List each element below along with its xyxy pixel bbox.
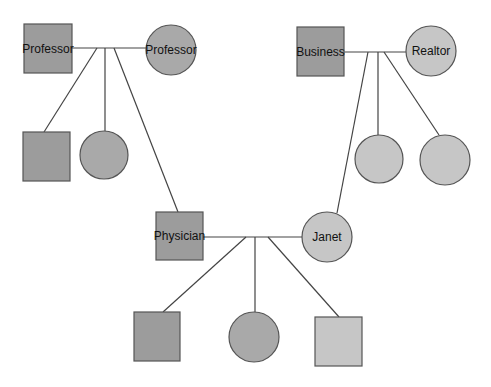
node-label: Janet — [312, 230, 342, 244]
male-square-icon — [134, 312, 180, 361]
node-uncle1 — [23, 132, 70, 181]
node-aunt1 — [80, 131, 128, 179]
node-pgm: Professor — [145, 25, 196, 75]
node-son2 — [315, 317, 362, 366]
node-aunt2 — [355, 135, 403, 183]
node-aunt3 — [420, 135, 470, 185]
node-daughter — [229, 312, 279, 362]
node-mgf: Business — [296, 27, 345, 76]
female-circle-icon — [229, 312, 279, 362]
female-circle-icon — [355, 135, 403, 183]
male-square-icon — [315, 317, 362, 366]
male-square-icon — [23, 132, 70, 181]
node-pgf: Professor — [22, 24, 73, 73]
node-mother: Janet — [302, 212, 352, 262]
node-label: Business — [296, 45, 345, 59]
node-father: Physician — [154, 212, 205, 260]
female-circle-icon — [80, 131, 128, 179]
node-label: Physician — [154, 229, 205, 243]
node-label: Realtor — [412, 44, 451, 58]
family-members: ProfessorProfessorBusinessRealtorPhysici… — [22, 24, 470, 366]
genogram-diagram: ProfessorProfessorBusinessRealtorPhysici… — [0, 0, 491, 387]
node-label: Professor — [22, 42, 73, 56]
female-circle-icon — [420, 135, 470, 185]
node-son1 — [134, 312, 180, 361]
node-mgm: Realtor — [406, 26, 456, 76]
node-label: Professor — [145, 43, 196, 57]
